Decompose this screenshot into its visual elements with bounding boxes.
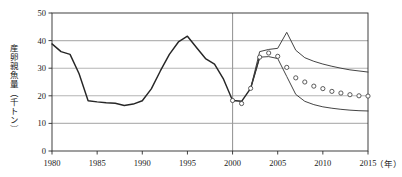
series-lines-group: [52, 32, 368, 111]
x-tick-label-1980: 1980: [44, 158, 61, 168]
plot-frame: [52, 13, 368, 151]
data-point-marker: [276, 54, 280, 58]
x-axis-ticks-group: 19801985199019952000200520102015: [44, 151, 377, 168]
x-tick-label-2005: 2005: [269, 158, 286, 168]
y-tick-label-20: 20: [38, 91, 47, 101]
x-axis-unit-label: （年）: [375, 159, 402, 169]
data-point-marker: [294, 76, 298, 80]
x-tick-label-2000: 2000: [224, 158, 241, 168]
x-tick-label-2010: 2010: [314, 158, 331, 168]
data-point-marker: [249, 86, 253, 90]
data-point-marker: [366, 94, 370, 98]
y-tick-label-40: 40: [38, 36, 47, 46]
data-point-marker: [285, 65, 289, 69]
data-point-marker: [267, 51, 271, 55]
y-tick-label-50: 50: [38, 8, 47, 18]
gridlines-group: [52, 41, 368, 124]
chart-container: 産卵親魚量（千トン） 01020304050 19801985199019952…: [0, 0, 402, 177]
x-tick-label-1990: 1990: [134, 158, 151, 168]
data-point-marker: [321, 87, 325, 91]
data-point-marker: [230, 98, 234, 102]
x-tick-label-1985: 1985: [89, 158, 106, 168]
series-line-projection-lower: [251, 57, 368, 111]
x-tick-label-2015: 2015: [360, 158, 377, 168]
data-point-marker: [303, 80, 307, 84]
y-tick-label-0: 0: [42, 146, 46, 156]
y-tick-label-10: 10: [38, 118, 47, 128]
y-tick-label-30: 30: [38, 63, 47, 73]
x-tick-label-1995: 1995: [179, 158, 196, 168]
data-point-marker: [312, 84, 316, 88]
data-point-marker: [339, 91, 343, 95]
data-point-marker: [240, 101, 244, 105]
y-axis-ticks-group: 01020304050: [38, 8, 53, 156]
data-point-marker: [258, 55, 262, 59]
data-point-marker: [330, 89, 334, 93]
data-point-marker: [348, 93, 352, 97]
data-point-marker: [357, 94, 361, 98]
series-line-historical: [52, 36, 260, 105]
chart-plot: 01020304050 1980198519901995200020052010…: [0, 0, 402, 177]
